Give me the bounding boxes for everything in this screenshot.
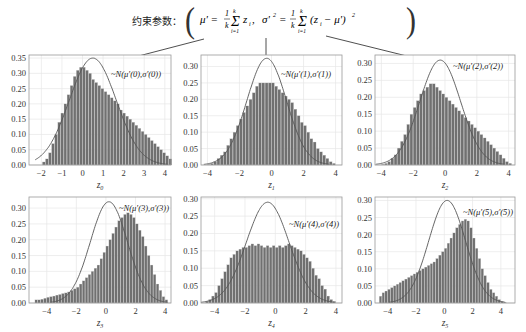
y-tick-label: 0.30 [11,68,26,78]
y-tick-label: 0.15 [11,251,26,261]
y-tick-label: 0.10 [357,264,372,274]
histogram-panel-0: 0.000.050.100.150.200.250.300.35−2−10123… [11,53,172,191]
y-tick-label: 0.00 [357,298,372,308]
y-tick-label: 0.25 [11,84,26,94]
x-axis-label: z2 [441,180,449,191]
y-tick-label: 0.05 [357,143,372,153]
x-tick-label: 2 [122,168,126,178]
x-tick-label: −2 [37,168,46,178]
y-tick-label: 0.25 [357,75,372,85]
x-tick-label: 0 [442,306,446,316]
y-tick-label: 0.00 [183,160,198,170]
y-tick-label: 0.10 [11,266,26,276]
y-tick-label: 0.05 [357,281,372,291]
x-tick-label: 4 [499,306,504,316]
x-tick-label: −2 [411,306,420,316]
x-tick-label: 3 [142,168,146,178]
plots-canvas: 0.000.050.100.150.200.250.300.35−2−10123… [0,0,526,332]
x-tick-label: 4 [507,168,512,178]
distribution-annotation: ~N(μ'(5),σ'(5)) [463,207,513,217]
y-tick-label: 0.30 [357,195,372,205]
y-tick-label: 0.15 [357,109,372,119]
y-tick-label: 0.05 [183,281,198,291]
y-tick-label: 0.10 [11,129,26,139]
x-tick-label: −2 [409,168,418,178]
y-tick-label: 0.00 [183,298,198,308]
y-tick-label: 0.25 [183,78,198,88]
x-tick-label: −4 [203,168,213,178]
y-tick-label: 0.20 [11,99,26,109]
x-tick-label: 0 [269,168,273,178]
distribution-annotation: ~N(μ'(1),σ'(1)) [281,69,331,79]
y-tick-label: 0.15 [357,247,372,257]
x-tick-label: 4 [163,306,168,316]
x-tick-label: 0 [80,168,84,178]
y-tick-label: 0.20 [11,235,26,245]
x-tick-label: −2 [240,306,249,316]
x-tick-label: −1 [57,168,66,178]
x-tick-label: 2 [475,168,479,178]
x-tick-label: 2 [303,306,307,316]
x-tick-label: 0 [443,168,447,178]
y-tick-label: 0.30 [183,194,198,204]
histogram-panel-1: 0.000.050.100.150.200.250.30−4−2024z1~N(… [183,55,342,191]
y-tick-label: 0.35 [11,53,26,63]
y-tick-label: 0.20 [357,230,372,240]
x-tick-label: −4 [383,306,393,316]
figure: 约束参数： ( μ' = 1 k k Σ i=1 z i , σ' 2 = 1 … [0,0,526,332]
x-tick-label: −2 [72,306,81,316]
x-tick-label: 1 [101,168,105,178]
x-tick-label: 4 [163,168,168,178]
y-tick-label: 0.15 [11,114,26,124]
y-tick-label: 0.15 [183,246,198,256]
histogram-panel-2: 0.000.050.100.150.200.250.30−4−2024z2~N(… [357,55,515,191]
y-tick-label: 0.00 [11,298,26,308]
x-tick-label: −4 [377,168,387,178]
x-tick-label: 2 [133,306,137,316]
y-tick-label: 0.10 [183,263,198,273]
x-tick-label: 0 [273,306,277,316]
y-tick-label: 0.30 [183,61,198,71]
x-tick-label: 2 [470,306,474,316]
y-tick-label: 0.25 [183,211,198,221]
x-tick-label: 0 [104,306,108,316]
y-tick-label: 0.00 [11,160,26,170]
distribution-annotation: ~N(μ'(4),σ'(4)) [289,219,339,229]
y-tick-label: 0.05 [11,145,26,155]
y-tick-label: 0.20 [183,94,198,104]
histogram-panel-5: 0.000.050.100.150.200.250.30−4−2024z5~N(… [357,195,515,329]
y-tick-label: 0.10 [357,126,372,136]
y-tick-label: 0.30 [11,203,26,213]
x-tick-label: −2 [235,168,244,178]
y-tick-label: 0.25 [357,213,372,223]
x-tick-label: −4 [210,306,220,316]
x-tick-label: 2 [301,168,305,178]
x-tick-label: 4 [333,168,338,178]
histogram-panel-4: 0.000.050.100.150.200.250.30−4−2024z4~N(… [183,194,342,329]
y-tick-label: 0.00 [357,160,372,170]
y-tick-label: 0.20 [357,92,372,102]
y-tick-label: 0.15 [183,111,198,121]
distribution-annotation: ~N(μ'(2),σ'(2)) [453,61,503,71]
x-axis-label: z5 [441,318,449,329]
x-tick-label: −4 [42,306,52,316]
x-axis-label: z4 [267,318,275,329]
x-axis-label: z3 [96,318,104,329]
histogram-panel-3: 0.000.050.100.150.200.250.30−4−2024z3~N(… [11,197,171,329]
x-axis-label: z0 [96,180,104,191]
distribution-annotation: ~N(μ'(0),σ'(0)) [111,69,161,79]
y-tick-label: 0.30 [357,58,372,68]
x-axis-label: z1 [267,180,275,191]
distribution-annotation: ~N(μ'(3),σ'(3)) [119,203,169,213]
y-tick-label: 0.05 [11,282,26,292]
y-tick-label: 0.05 [183,144,198,154]
y-tick-label: 0.20 [183,228,198,238]
y-tick-label: 0.10 [183,127,198,137]
y-tick-label: 0.25 [11,219,26,229]
x-tick-label: 4 [334,306,339,316]
